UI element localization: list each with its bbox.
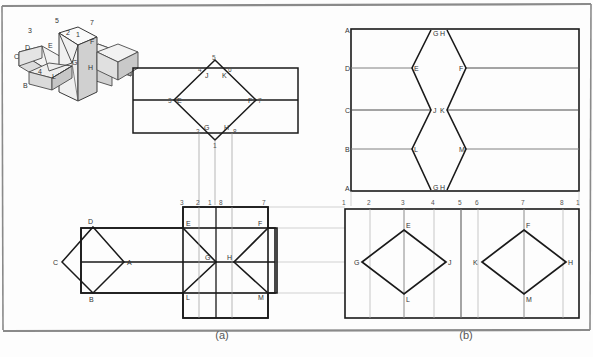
bottom-a-cross-label: M <box>258 294 264 301</box>
development-view-b-upper: A D C B A G E J L G H F K M H <box>345 27 579 206</box>
bottom-b-left-diamond-label: G <box>354 259 359 266</box>
bottom-a-cross-label: F <box>258 220 262 227</box>
figure-page: 3 5 7 2 1 D E C G F B 4 L H 5 <box>0 0 593 357</box>
bottom-a-cross-label: H <box>227 254 232 261</box>
top-a-number: 5 <box>212 54 216 61</box>
bottom-b-left-diamond-label: E <box>406 222 411 229</box>
pictorial-label: 4 <box>38 68 42 75</box>
front-view-cross-detail <box>81 207 275 318</box>
pictorial-label: D <box>25 44 30 51</box>
top-b-left-label: D <box>345 65 350 72</box>
bottom-a-number: 3 <box>180 199 184 206</box>
top-a-number: 2 <box>196 128 200 135</box>
top-b-left-label: B <box>345 146 350 153</box>
bottom-b-number: 6 <box>475 199 479 206</box>
top-b-seam-label: L <box>414 146 418 153</box>
bottom-b-right-diamond-label: M <box>526 296 532 303</box>
bottom-b-number: 3 <box>401 199 405 206</box>
bottom-b-number: 4 <box>431 199 435 206</box>
bottom-b-number: 1 <box>576 199 580 206</box>
top-a-number: 3 <box>168 97 172 104</box>
top-a-number: 4 <box>198 66 202 73</box>
pictorial-label: B <box>23 82 28 89</box>
top-b-seam-label: E <box>414 65 419 72</box>
technical-drawing-canvas: 3 5 7 2 1 D E C G F B 4 L H 5 <box>0 0 593 357</box>
bottom-b-left-diamond-label: J <box>448 259 452 266</box>
top-b-seam-label: G <box>433 30 438 37</box>
chevron-right-a <box>234 228 268 293</box>
top-a-letter: J <box>205 72 209 79</box>
bottom-a-number: 7 <box>262 199 266 206</box>
bottom-b-left-diamond-label: L <box>406 296 410 303</box>
top-b-seam-label: M <box>459 146 465 153</box>
bottom-b-number: 1 <box>342 199 346 206</box>
pictorial-label: E <box>48 42 53 49</box>
top-a-letter: K <box>222 72 227 79</box>
top-b-seam-label: K <box>440 107 445 114</box>
bottom-a-cross-label: L <box>186 294 190 301</box>
bottom-a-cross-label: G <box>205 254 210 261</box>
pictorial-label: 3 <box>28 27 32 34</box>
top-b-left-label: A <box>345 185 350 192</box>
pictorial-label: 2 <box>66 29 70 36</box>
bottom-a-diamond-label: B <box>89 296 94 303</box>
bottom-a-diamond-label: D <box>88 218 93 225</box>
bottom-b-right-diamond-label: F <box>526 222 530 229</box>
pictorial-label: G <box>72 59 77 66</box>
bottom-b-number: 5 <box>458 199 462 206</box>
top-a-number: 1 <box>213 142 217 149</box>
top-a-number: 8 <box>233 128 237 135</box>
pictorial-label: H <box>88 64 93 71</box>
front-view-b-development: 1 2 3 4 5 6 7 8 1 E G J L F K H M <box>342 199 580 318</box>
bottom-b-number: 7 <box>521 199 525 206</box>
caption-b: (b) <box>459 329 472 341</box>
chevron-left-a <box>183 228 216 293</box>
bottom-a-number: 1 <box>208 199 212 206</box>
pictorial-label: C <box>14 53 19 60</box>
pictorial-label: 1 <box>76 31 80 38</box>
pictorial-label: L <box>52 73 56 80</box>
top-a-number: 6 <box>228 66 232 73</box>
pictorial-label: F <box>90 38 94 45</box>
pictorial-label: 5 <box>55 17 59 24</box>
top-b-seam-label: H <box>440 30 445 37</box>
bottom-a-number: 8 <box>219 199 223 206</box>
top-a-letter: H <box>224 124 229 131</box>
isometric-cross-solid: 3 5 7 2 1 D E C G F B 4 L H <box>14 17 138 101</box>
auxiliary-diamond-a <box>62 227 124 293</box>
top-b-seam-label: J <box>433 107 437 114</box>
front-view-a: 3 2 1 8 7 D C A B E F G H L M <box>53 199 345 318</box>
bottom-a-cross-label: E <box>186 220 191 227</box>
bottom-a-diamond-label: C <box>53 259 58 266</box>
top-b-seam-label: G <box>433 184 438 191</box>
top-a-number: 7 <box>258 97 262 104</box>
bottom-b-right-diamond-label: H <box>568 259 573 266</box>
top-view-a: 5 4 6 3 7 2 8 1 J K E F G H <box>133 54 298 205</box>
caption-a: (a) <box>215 329 228 341</box>
top-a-letter: G <box>204 124 209 131</box>
bottom-a-diamond-label: A <box>127 259 132 266</box>
bottom-a-number: 2 <box>196 199 200 206</box>
top-b-seam-label: H <box>440 184 445 191</box>
pictorial-label: 7 <box>90 19 94 26</box>
bottom-b-number: 2 <box>367 199 371 206</box>
bottom-b-right-diamond-label: K <box>473 259 478 266</box>
top-a-letter: F <box>248 97 252 104</box>
top-a-letter: E <box>177 97 182 104</box>
top-b-left-label: A <box>345 27 350 34</box>
top-b-left-label: C <box>345 107 350 114</box>
top-b-seam-label: F <box>459 65 463 72</box>
bottom-b-number: 8 <box>560 199 564 206</box>
